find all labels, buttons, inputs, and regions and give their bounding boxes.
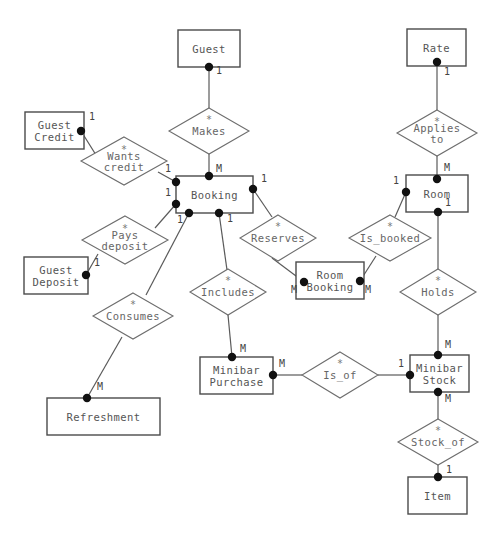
er-entity[interactable]: MinibarStock xyxy=(410,355,469,392)
cardinality-label: M xyxy=(97,381,103,392)
entity-label: Purchase xyxy=(210,376,264,388)
relationship-label: Is_of xyxy=(323,369,357,382)
connection-dot xyxy=(185,209,193,217)
er-relationship[interactable]: *Consumes xyxy=(93,293,173,339)
er-relationship[interactable]: *Makes xyxy=(169,108,249,154)
er-connection xyxy=(219,213,227,270)
er-relationship[interactable]: *Reserves xyxy=(240,215,316,261)
entity-label: Minibar xyxy=(213,364,260,376)
relationship-participation-marker: * xyxy=(275,221,281,232)
relationship-participation-marker: * xyxy=(206,114,212,125)
er-diagram-canvas: *Makes*Appliesto*Wantscredit*Paysdeposit… xyxy=(0,0,502,537)
relationship-label: credit xyxy=(104,161,144,173)
connection-dot xyxy=(82,271,90,279)
entity-label: Stock xyxy=(423,374,457,386)
cardinality-label: 1 xyxy=(89,111,95,122)
relationship-participation-marker: * xyxy=(435,275,441,286)
relationship-label: Stock_of xyxy=(411,436,465,449)
entity-label: Guest xyxy=(192,43,226,55)
connection-dot xyxy=(434,351,442,359)
er-relationship[interactable]: *Stock_of xyxy=(398,419,478,465)
cardinality-label: M xyxy=(445,339,451,350)
er-entity[interactable]: GuestDeposit xyxy=(24,257,88,294)
connection-dot xyxy=(172,200,180,208)
entity-label: Guest xyxy=(38,119,72,131)
er-entity[interactable]: MinibarPurchase xyxy=(200,357,273,394)
cardinality-label: 1 xyxy=(177,214,183,225)
er-relationship[interactable]: *Is_of xyxy=(302,352,378,398)
connection-dot xyxy=(433,175,441,183)
entity-label: Deposit xyxy=(32,276,79,288)
entity-label: Booking xyxy=(306,281,353,293)
connection-dot xyxy=(249,185,257,193)
entity-label: Item xyxy=(424,490,451,502)
relationship-label: to xyxy=(430,133,443,145)
relationship-participation-marker: * xyxy=(387,221,393,232)
er-connection xyxy=(228,315,232,357)
er-entity[interactable]: GuestCredit xyxy=(25,112,84,149)
er-entity[interactable]: Refreshment xyxy=(47,398,160,435)
cardinality-label: 1 xyxy=(393,175,399,186)
connection-line xyxy=(155,204,176,228)
entity-label: Rate xyxy=(423,42,450,54)
connection-dot xyxy=(205,63,213,71)
connection-dot xyxy=(228,353,236,361)
er-connection xyxy=(87,337,122,398)
relationship-label: deposit xyxy=(101,240,148,252)
connection-dot xyxy=(172,178,180,186)
cardinality-label: 1 xyxy=(165,187,171,198)
cardinality-label: M xyxy=(444,162,450,173)
connection-line xyxy=(219,213,227,270)
er-relationship[interactable]: *Is_booked xyxy=(349,215,431,261)
cardinality-label: 1 xyxy=(445,197,451,208)
relationship-participation-marker: * xyxy=(225,275,231,286)
connection-dot xyxy=(433,58,441,66)
connection-dot xyxy=(83,394,91,402)
relationship-label: Is_booked xyxy=(360,232,421,245)
er-relationship[interactable]: *Includes xyxy=(190,269,266,315)
cardinality-label: M xyxy=(240,343,246,354)
cardinality-label: 1 xyxy=(444,66,450,77)
cardinality-label: 1 xyxy=(446,464,452,475)
cardinality-label: 1 xyxy=(398,358,404,369)
er-entity[interactable]: Booking xyxy=(176,176,253,213)
connection-line xyxy=(228,315,232,357)
cardinality-label: M xyxy=(279,358,285,369)
connection-dot xyxy=(434,208,442,216)
er-cardinality-marker: 1 xyxy=(165,163,180,186)
connection-dot xyxy=(269,371,277,379)
er-connection xyxy=(146,213,189,295)
connection-dot xyxy=(300,278,308,286)
er-entity[interactable]: Guest xyxy=(178,30,240,67)
entity-label: Guest xyxy=(39,264,73,276)
relationship-participation-marker: * xyxy=(435,425,441,436)
er-entity[interactable]: Item xyxy=(408,477,467,514)
cardinality-label: 1 xyxy=(216,65,222,76)
entity-label: Credit xyxy=(34,131,74,143)
connection-dot xyxy=(215,209,223,217)
connection-line xyxy=(146,213,189,295)
cardinality-label: M xyxy=(216,163,222,174)
er-connection xyxy=(253,189,272,217)
relationship-label: Reserves xyxy=(251,232,305,244)
relationship-label: Holds xyxy=(421,286,455,298)
connection-line xyxy=(253,189,272,217)
relationship-label: Makes xyxy=(192,125,226,137)
er-relationship[interactable]: *Wantscredit xyxy=(81,137,167,185)
er-diagram-svg: *Makes*Appliesto*Wantscredit*Paysdeposit… xyxy=(0,0,502,537)
entity-label: Booking xyxy=(191,189,238,201)
entity-label: Minibar xyxy=(416,362,463,374)
relationship-label: Includes xyxy=(201,286,255,298)
cardinality-label: 1 xyxy=(227,213,233,224)
connection-dot xyxy=(205,172,213,180)
cardinality-label: 1 xyxy=(94,257,100,268)
relationship-participation-marker: * xyxy=(130,299,136,310)
connection-dot xyxy=(406,371,414,379)
er-relationship[interactable]: *Holds xyxy=(400,269,476,315)
cardinality-label: 1 xyxy=(165,163,171,174)
relationship-label: Consumes xyxy=(106,310,160,322)
cardinality-label: M xyxy=(365,284,371,295)
connection-line xyxy=(87,337,122,398)
connection-dot xyxy=(356,277,364,285)
er-relationship[interactable]: *Appliesto xyxy=(397,110,477,156)
